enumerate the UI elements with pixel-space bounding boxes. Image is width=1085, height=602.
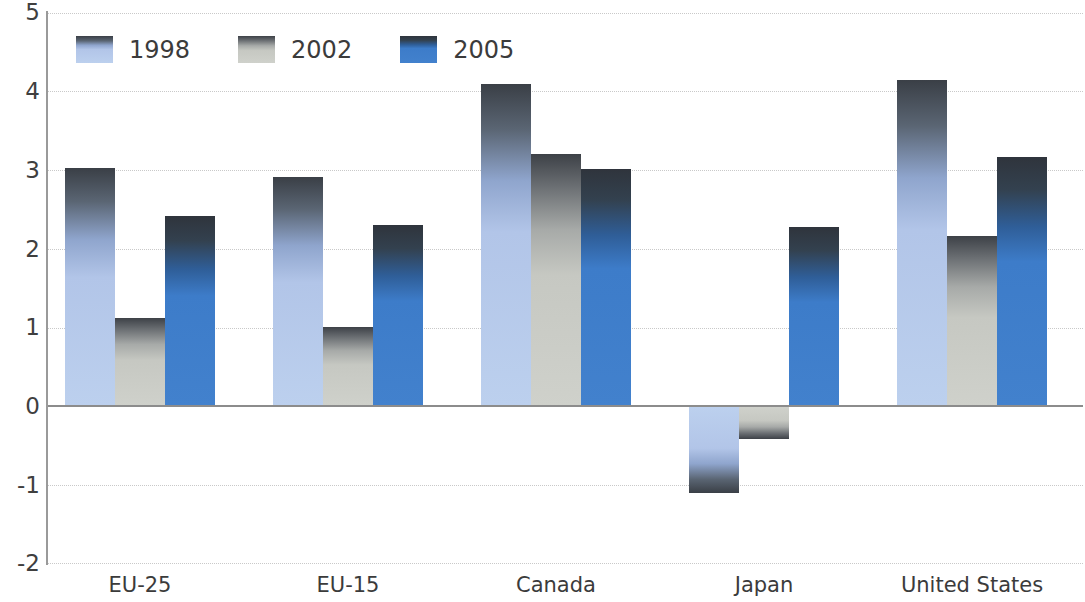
x-label-japan: Japan — [689, 575, 839, 596]
zero-line — [47, 405, 1083, 407]
x-label-canada: Canada — [481, 575, 631, 596]
bar-canada-2005[interactable] — [581, 169, 631, 406]
x-axis-labels: EU-25 EU-15 Canada Japan United States — [0, 575, 1085, 602]
y-tick-label-3: 3 — [4, 159, 40, 182]
bar-eu15-2002[interactable] — [323, 327, 373, 406]
legend-item-1998[interactable]: 1998 — [76, 36, 238, 63]
y-tick-label-1: 1 — [4, 316, 40, 339]
legend-item-2005[interactable]: 2005 — [400, 36, 514, 63]
legend-label-2002: 2002 — [291, 38, 352, 62]
bar-canada-1998[interactable] — [481, 84, 531, 406]
bar-eu25-2005[interactable] — [165, 216, 215, 406]
y-tick-label-minus-1: -1 — [4, 474, 40, 497]
bar-eu15-2005[interactable] — [373, 225, 423, 406]
bar-eu25-1998[interactable] — [65, 168, 115, 406]
bar-canada-2002[interactable] — [531, 154, 581, 406]
x-label-eu25: EU-25 — [65, 575, 215, 596]
bar-japan-2002[interactable] — [739, 407, 789, 439]
x-label-united-states: United States — [897, 575, 1047, 596]
legend-label-1998: 1998 — [129, 38, 190, 62]
bar-japan-2005[interactable] — [789, 227, 839, 406]
y-tick-label-5: 5 — [4, 1, 40, 24]
y-tick-label-4: 4 — [4, 80, 40, 103]
y-tick-label-0: 0 — [4, 395, 40, 418]
bar-united-states-2005[interactable] — [997, 157, 1047, 406]
bar-united-states-1998[interactable] — [897, 80, 947, 406]
bar-eu25-2002[interactable] — [115, 318, 165, 406]
y-tick-label-2: 2 — [4, 238, 40, 261]
x-label-eu15: EU-15 — [273, 575, 423, 596]
bar-eu15-1998[interactable] — [273, 177, 323, 406]
y-axis-line — [46, 11, 48, 565]
legend: 1998 2002 2005 — [76, 36, 514, 63]
bar-chart: 5 4 3 2 1 0 -1 -2 1998 2002 2005 EU-25 E… — [0, 0, 1085, 602]
bar-united-states-2002[interactable] — [947, 236, 997, 406]
bar-japan-1998[interactable] — [689, 407, 739, 493]
legend-swatch-icon-1998 — [76, 36, 113, 63]
legend-swatch-icon-2005 — [400, 36, 437, 63]
legend-item-2002[interactable]: 2002 — [238, 36, 400, 63]
bars-layer — [0, 0, 1085, 602]
legend-swatch-icon-2002 — [238, 36, 275, 63]
y-tick-label-minus-2: -2 — [4, 552, 40, 575]
legend-label-2005: 2005 — [453, 38, 514, 62]
